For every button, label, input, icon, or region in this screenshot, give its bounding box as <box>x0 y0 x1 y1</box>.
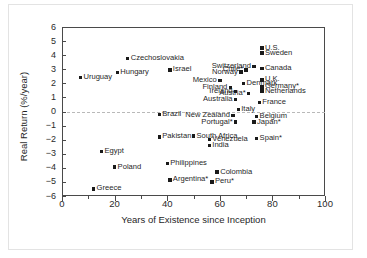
data-point <box>215 170 218 173</box>
y-tick-mark <box>62 126 66 127</box>
data-point <box>168 178 171 181</box>
y-tick-mark <box>62 41 66 42</box>
data-point <box>260 67 263 70</box>
y-tick-label: −2 <box>38 135 56 144</box>
y-tick-label: 0 <box>38 107 56 116</box>
data-point-label: Colombia <box>220 168 252 176</box>
data-point-label: Israel <box>173 65 192 73</box>
data-point-label: Poland <box>118 163 142 171</box>
y-tick-label: 4 <box>38 51 56 60</box>
data-point-label: Brazil <box>162 110 181 118</box>
data-point-label: Australia <box>203 95 233 103</box>
data-point-label: France <box>262 98 286 106</box>
data-point <box>260 85 263 88</box>
data-point <box>168 68 171 71</box>
data-point <box>247 92 250 95</box>
data-point-label: Greece <box>97 184 122 192</box>
data-point <box>242 82 245 85</box>
data-point-label: Philippines <box>170 159 207 167</box>
y-tick-mark <box>62 27 66 28</box>
data-point-label: Netherlands <box>265 87 306 95</box>
data-point-label: Italy <box>241 105 255 113</box>
data-point <box>260 89 263 92</box>
data-point <box>260 46 263 49</box>
x-tick-mark-minor <box>141 196 142 199</box>
data-point-label: India <box>212 141 228 149</box>
data-point <box>252 120 255 123</box>
y-tick-mark <box>62 182 66 183</box>
y-tick-mark <box>62 69 66 70</box>
data-point <box>208 144 211 147</box>
y-tick-mark <box>62 55 66 56</box>
data-point <box>116 71 119 74</box>
data-point-label: Japan* <box>257 118 281 126</box>
data-point-label: Uruguay <box>83 73 112 81</box>
x-tick-mark-minor <box>299 196 300 199</box>
y-axis-label: Real Return (%/year) <box>18 42 29 192</box>
y-tick-label: 5 <box>38 37 56 46</box>
x-tick-mark <box>115 196 116 201</box>
x-tick-mark-minor <box>88 196 89 199</box>
y-tick-mark <box>62 154 66 155</box>
y-tick-mark <box>62 112 66 113</box>
y-tick-label: −1 <box>38 121 56 130</box>
data-point <box>92 187 95 190</box>
y-tick-mark <box>62 97 66 98</box>
data-point <box>260 51 263 54</box>
x-tick-mark-minor <box>194 196 195 199</box>
y-tick-mark <box>62 140 66 141</box>
data-point-label: Peru* <box>215 177 234 185</box>
scatter-chart: Real Return (%/year) Years of Existence … <box>0 0 367 258</box>
screenshot-root: Real Return (%/year) Years of Existence … <box>0 0 367 258</box>
x-tick-mark <box>272 196 273 201</box>
x-tick-mark <box>62 196 63 201</box>
data-point <box>210 180 213 183</box>
data-point <box>166 162 169 165</box>
y-tick-label: −5 <box>38 177 56 186</box>
data-point-label: Switzerland <box>212 62 251 70</box>
data-point <box>192 134 195 137</box>
data-point <box>234 120 237 123</box>
data-point <box>252 65 255 68</box>
data-point <box>158 135 161 138</box>
x-tick-mark <box>325 196 326 201</box>
data-point <box>158 113 161 116</box>
x-tick-mark-minor <box>246 196 247 199</box>
data-point-label: Canada <box>265 64 292 72</box>
data-point-label: Pakistan <box>162 132 191 140</box>
data-point <box>208 138 211 141</box>
data-point-label: Argentina* <box>173 175 208 183</box>
data-point-label: Egypt <box>104 147 123 155</box>
data-point <box>126 57 129 60</box>
y-tick-label: 2 <box>38 79 56 88</box>
data-point <box>234 98 237 101</box>
data-point <box>100 150 103 153</box>
data-point <box>113 165 116 168</box>
data-point-label: Spain* <box>260 134 282 142</box>
data-point <box>237 108 240 111</box>
y-tick-label: 1 <box>38 93 56 102</box>
data-point <box>79 76 82 79</box>
data-point-label: Czechoslovakia <box>131 54 184 62</box>
x-tick-mark <box>220 196 221 201</box>
y-tick-mark <box>62 83 66 84</box>
y-tick-label: 3 <box>38 65 56 74</box>
data-point-label: Portugal* <box>201 118 232 126</box>
y-tick-label: −4 <box>38 163 56 172</box>
x-tick-mark <box>167 196 168 201</box>
data-point-label: Sweden <box>265 49 292 57</box>
data-point <box>258 101 261 104</box>
y-tick-label: 6 <box>38 23 56 32</box>
x-axis-label: Years of Existence since Inception <box>62 214 325 225</box>
data-point <box>255 137 258 140</box>
y-tick-mark <box>62 168 66 169</box>
y-tick-label: −3 <box>38 149 56 158</box>
data-point-label: Hungary <box>120 68 149 76</box>
